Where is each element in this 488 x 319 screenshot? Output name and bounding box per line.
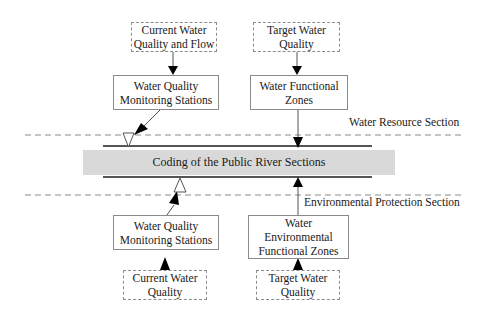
box-label: Water Quality Monitoring Stations bbox=[120, 219, 212, 247]
arrow-head-icon bbox=[169, 191, 179, 205]
water-quality-monitoring-stations-top-box: Water Quality Monitoring Stations bbox=[113, 75, 219, 110]
box-label: Water Quality Monitoring Stations bbox=[120, 79, 212, 107]
box-label: Water Environmental Functional Zones bbox=[258, 216, 338, 258]
water-resource-section-label: Water Resource Section bbox=[349, 116, 459, 128]
public-river-sections-band: Coding of the Public River Sections bbox=[83, 150, 395, 175]
box-label: Target Water Quality bbox=[267, 23, 326, 51]
water-environmental-functional-zones-box: Water Environmental Functional Zones bbox=[248, 215, 349, 259]
environmental-protection-section-label: Environmental Protection Section bbox=[304, 196, 460, 208]
target-water-quality-top-box: Target Water Quality bbox=[253, 22, 340, 52]
box-label: Current Water Quality bbox=[133, 271, 198, 299]
hollow-triangle-icon bbox=[123, 133, 134, 147]
current-water-quality-and-flow-box: Current Water Quality and Flow bbox=[131, 22, 217, 52]
arrow-head-icon bbox=[293, 177, 303, 187]
arrow-head-icon bbox=[168, 66, 178, 75]
current-water-quality-box: Current Water Quality bbox=[123, 270, 207, 300]
water-quality-monitoring-stations-bottom-box: Water Quality Monitoring Stations bbox=[113, 215, 219, 250]
hollow-triangle-icon bbox=[174, 178, 186, 192]
arrow-head-icon bbox=[160, 257, 170, 270]
box-label: Target Water Quality bbox=[269, 271, 328, 299]
arrow-head-icon bbox=[292, 66, 302, 75]
box-label: Current Water Quality and Flow bbox=[134, 23, 215, 51]
arrow-head-icon bbox=[293, 258, 303, 270]
band-label: Coding of the Public River Sections bbox=[153, 155, 326, 170]
target-water-quality-bottom-box: Target Water Quality bbox=[256, 270, 340, 300]
box-label: Water Functional Zones bbox=[259, 79, 338, 107]
water-functional-zones-box: Water Functional Zones bbox=[250, 75, 348, 110]
